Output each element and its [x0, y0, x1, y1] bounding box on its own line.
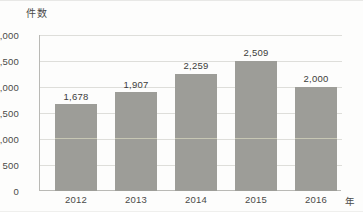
y-axis-title: 件数	[26, 9, 47, 19]
x-tick-label: 2012	[46, 194, 106, 205]
bar-value-label: 2,000	[286, 73, 346, 84]
y-tick-label: 2,000	[0, 82, 19, 93]
table-row[interactable]	[235, 61, 277, 191]
bar-chart: 件数 3,000 2,500 2,000 1,500 1,000 500 0 1…	[0, 0, 363, 212]
table-row[interactable]	[55, 104, 97, 191]
bar-value-label: 1,678	[46, 91, 106, 102]
bar-value-label: 1,907	[106, 79, 166, 90]
gridline-over-bar	[295, 138, 337, 139]
y-tick-label: 1,000	[0, 134, 19, 145]
y-tick-label: 3,000	[0, 30, 19, 41]
y-tick-label: 1,500	[0, 108, 19, 119]
x-axis: 2012 2013 2014 2015 2016	[39, 194, 341, 210]
gridline-over-bar	[235, 138, 277, 139]
gridline-over-bar	[175, 138, 217, 139]
table-row[interactable]	[115, 92, 157, 191]
bar-value-label: 2,259	[166, 60, 226, 71]
bars-layer: 1,678 1,907 2,259 2,509 2,000	[39, 35, 341, 191]
bar-value-label: 2,509	[226, 47, 286, 58]
x-tick-label: 2014	[166, 194, 226, 205]
table-row[interactable]	[295, 87, 337, 191]
gridline-over-bar	[115, 138, 157, 139]
y-tick-label: 500	[3, 160, 19, 171]
x-axis-unit-label: 年	[345, 194, 355, 208]
gridline-over-bar	[55, 138, 97, 139]
x-tick-label: 2015	[226, 194, 286, 205]
y-tick-label: 0	[14, 186, 19, 197]
y-tick-label: 2,500	[0, 56, 19, 67]
x-tick-label: 2013	[106, 194, 166, 205]
x-tick-label: 2016	[286, 194, 346, 205]
table-row[interactable]	[175, 74, 217, 191]
